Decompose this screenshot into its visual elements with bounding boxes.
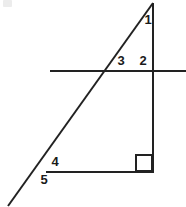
geometry-figure: 1 3 2 4 5 [0,0,186,207]
angle-label-3: 3 [117,53,124,68]
angle-label-1: 1 [144,12,151,27]
transversal-line [8,3,153,206]
angle-label-5: 5 [40,172,47,187]
angle-label-2: 2 [139,53,146,68]
geometry-diagram: 1 3 2 4 5 [0,0,186,207]
angle-label-4: 4 [51,154,59,169]
right-angle-square-icon [136,155,152,171]
